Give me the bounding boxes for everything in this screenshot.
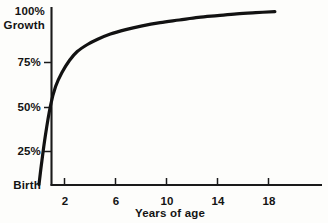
y-axis-label-25: 25% [17, 146, 41, 158]
x-axis-title: Years of age [120, 208, 220, 220]
x-axis-label-10: 10 [157, 196, 177, 208]
growth-chart: 100% Growth 75% 50% 25% Birth 2 6 10 14 … [0, 0, 328, 223]
x-axis-label-6: 6 [109, 196, 123, 208]
y-axis-label-birth: Birth [13, 180, 41, 192]
chart-plot-area [0, 0, 328, 223]
x-axis-ticks [65, 178, 269, 185]
y-axis-label-75: 75% [17, 57, 41, 69]
y-axis-unit-label: Growth [4, 20, 45, 32]
x-axis-label-18: 18 [259, 196, 279, 208]
growth-curve [39, 12, 275, 185]
x-axis-label-14: 14 [208, 196, 228, 208]
x-axis-label-2: 2 [58, 196, 72, 208]
y-axis-label-50: 50% [17, 102, 41, 114]
y-axis-label-100: 100% [15, 6, 45, 18]
